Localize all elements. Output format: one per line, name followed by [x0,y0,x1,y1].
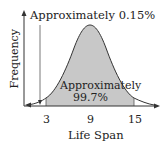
y-axis-arrow-icon [22,10,27,16]
x-axis-arrow-icon [154,104,160,109]
top-annotation: Approximately 0.15% [30,10,155,22]
center-annotation-line2: 99.7% [73,92,108,103]
tick-label-9: 9 [87,114,94,125]
center-annotation-line1: Approximately [60,80,141,91]
normal-curve-chart [0,0,168,147]
x-axis-label: Life Span [68,130,124,142]
curve-left-arrow-icon [25,103,31,108]
tick-label-15: 15 [128,114,142,125]
y-axis-label: Frequency [9,33,20,89]
tick-label-3: 3 [43,114,50,125]
